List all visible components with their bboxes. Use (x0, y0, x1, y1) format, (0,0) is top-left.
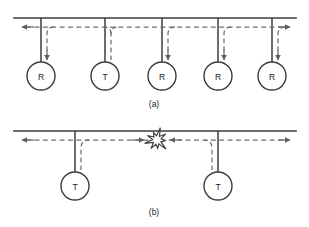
figure-container: RTRRR(a) TT(b) (0, 0, 309, 227)
station-a-2-transmit-branch (111, 27, 118, 60)
station-b-1-transmit-branch (81, 140, 89, 170)
station-b-2-transmit-branch (204, 140, 212, 170)
station-a-1-label: R (38, 72, 44, 82)
station-a-5-receive-branch (278, 27, 285, 56)
station-a-4-receive-branch (224, 27, 231, 56)
station-a-2-label: T (102, 72, 107, 82)
station-a-4-label: R (215, 72, 221, 82)
station-a-3-receive-branch (168, 27, 175, 56)
panel-b-caption: (b) (149, 207, 160, 217)
panel-a-caption: (a) (149, 99, 160, 109)
station-a-5-label: R (269, 72, 275, 82)
panel-a: RTRRR(a) (14, 18, 296, 109)
station-b-2-label: T (215, 182, 220, 192)
bus-topology-diagram: RTRRR(a) TT(b) (0, 0, 309, 227)
station-a-3-label: R (159, 72, 165, 82)
panel-b: TT(b) (14, 128, 296, 217)
station-a-1-receive-branch (47, 27, 54, 56)
station-b-1-label: T (72, 182, 77, 192)
